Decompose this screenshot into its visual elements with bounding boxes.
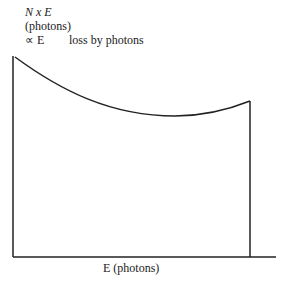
- x-axis-label: E (photons): [103, 262, 159, 275]
- diagram-plot: [0, 0, 284, 285]
- spectrum-curve: [15, 57, 250, 116]
